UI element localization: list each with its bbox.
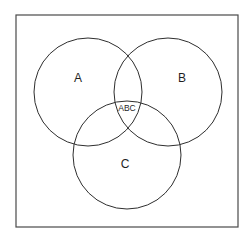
set-b-circle (114, 38, 222, 146)
set-b-label: B (178, 71, 186, 85)
set-a-label: A (74, 71, 82, 85)
universe-frame (16, 15, 238, 227)
intersection-abc-label: ABC (118, 103, 135, 113)
venn-diagram: A B C ABC (0, 0, 251, 241)
set-a-circle (34, 38, 142, 146)
set-c-circle (73, 101, 181, 209)
set-c-label: C (121, 157, 130, 171)
